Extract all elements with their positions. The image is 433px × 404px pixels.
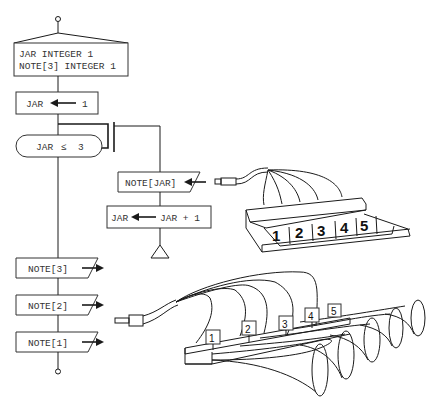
- loop-condition-rhs: 3: [78, 142, 84, 153]
- end-terminal: [56, 369, 61, 374]
- output-block-2: NOTE[2]: [16, 295, 102, 315]
- keypad-key-1: 1: [272, 227, 280, 244]
- flowchart-diagram: JAR INTEGER 1 NOTE[3] INTEGER 1 JAR 1 JA…: [0, 0, 433, 404]
- start-terminal: [56, 17, 61, 34]
- horn-5-bell: [411, 300, 425, 336]
- increment-block: JAR JAR + 1: [107, 206, 211, 228]
- input-label: NOTE[JAR]: [125, 178, 176, 189]
- loop-end-triangle-icon: [151, 245, 169, 258]
- keypad-key-3: 3: [317, 222, 325, 239]
- keypad-device: 1 2 3 4 5: [246, 170, 410, 252]
- output-block-1: NOTE[1]: [16, 332, 102, 352]
- increment-rhs: JAR + 1: [160, 213, 200, 224]
- keypad-key-4: 4: [340, 219, 349, 236]
- loop-condition-op: ≤: [61, 142, 67, 153]
- loop-condition-lhs: JAR: [36, 142, 53, 153]
- output-block-3: NOTE[3]: [16, 258, 102, 278]
- init-rhs: 1: [82, 99, 88, 110]
- input-block: NOTE[JAR]: [118, 172, 206, 192]
- increment-lhs: JAR: [111, 213, 128, 224]
- loop-condition-block: JAR ≤ 3: [16, 135, 102, 157]
- declaration-block: JAR INTEGER 1 NOTE[3] INTEGER 1: [14, 33, 128, 76]
- declaration-line-1: JAR INTEGER 1: [19, 49, 93, 60]
- horn-label-4: 4: [308, 311, 314, 322]
- input-plug-cable: [215, 168, 268, 185]
- output-label-1: NOTE[1]: [28, 338, 68, 349]
- horn-label-1: 1: [209, 333, 215, 344]
- keypad-key-2: 2: [295, 224, 303, 241]
- init-assignment-block: JAR 1: [16, 92, 98, 114]
- output-label-2: NOTE[2]: [28, 301, 68, 312]
- horn-2-bell: [338, 331, 354, 379]
- horn-label-5: 5: [331, 306, 337, 317]
- output-label-3: NOTE[3]: [28, 264, 68, 275]
- declaration-line-2: NOTE[3] INTEGER 1: [19, 61, 116, 72]
- horn-label-2: 2: [245, 324, 251, 335]
- horn-4-bell: [389, 308, 403, 348]
- keypad-key-5: 5: [360, 217, 368, 234]
- horns-device: 1 2 3 4 5: [185, 300, 425, 396]
- horn-label-3: 3: [282, 319, 288, 330]
- horn-3-bell: [364, 318, 380, 362]
- init-lhs: JAR: [26, 99, 43, 110]
